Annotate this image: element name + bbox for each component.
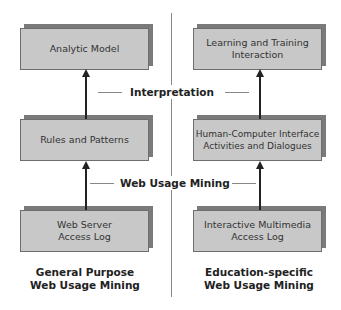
box-label: Rules and Patterns xyxy=(40,134,129,146)
stage-label-interpretation: Interpretation xyxy=(126,85,218,99)
arrow-line-right-upper xyxy=(259,76,261,119)
box-label: Analytic Model xyxy=(50,43,120,55)
box-label: Interactive Multimedia Access Log xyxy=(204,219,311,243)
arrow-up-icon xyxy=(82,69,90,77)
box-body: Web Server Access Log xyxy=(20,210,149,252)
arrow-up-icon xyxy=(82,161,90,169)
stage-label-text: Interpretation xyxy=(130,86,214,98)
box-body: Rules and Patterns xyxy=(20,119,149,161)
arrow-line-left-upper xyxy=(85,76,87,119)
box-rules-and-patterns: Rules and Patterns xyxy=(20,119,149,161)
dash-left xyxy=(90,183,114,184)
box-label: Human-Computer Interface Activities and … xyxy=(196,128,320,152)
box-web-server-access-log: Web Server Access Log xyxy=(20,210,149,252)
box-learning-and-training: Learning and Training Interaction xyxy=(193,28,322,70)
stage-label-web-usage-mining: Web Usage Mining xyxy=(116,176,234,190)
arrow-up-icon xyxy=(256,161,264,169)
arrow-line-left-lower xyxy=(85,168,87,210)
dash-left xyxy=(98,92,122,93)
box-body: Interactive Multimedia Access Log xyxy=(193,210,322,252)
dash-right xyxy=(225,92,249,93)
column-divider xyxy=(171,13,172,297)
box-analytic-model: Analytic Model xyxy=(20,28,149,70)
caption-education-specific: Education-specific Web Usage Mining xyxy=(184,266,334,292)
stage-label-text: Web Usage Mining xyxy=(120,177,230,189)
box-label: Learning and Training Interaction xyxy=(206,37,309,61)
box-body: Learning and Training Interaction xyxy=(193,28,322,70)
arrow-line-right-lower xyxy=(259,168,261,210)
arrow-up-icon xyxy=(256,69,264,77)
box-body: Analytic Model xyxy=(20,28,149,70)
box-body: Human-Computer Interface Activities and … xyxy=(193,119,322,161)
box-hci-activities: Human-Computer Interface Activities and … xyxy=(193,119,322,161)
box-multimedia-access-log: Interactive Multimedia Access Log xyxy=(193,210,322,252)
dash-right xyxy=(232,183,256,184)
box-label: Web Server Access Log xyxy=(57,219,112,243)
caption-general-purpose: General Purpose Web Usage Mining xyxy=(10,266,160,292)
